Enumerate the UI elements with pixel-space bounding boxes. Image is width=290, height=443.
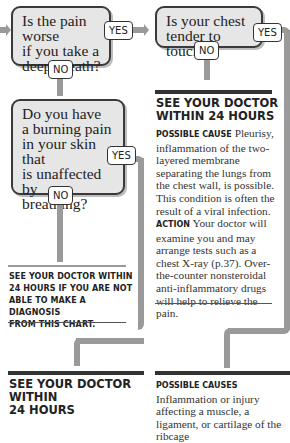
divider — [8, 322, 126, 323]
possible-causes-paragraph: Possible causes Inflammation or injury a… — [156, 378, 290, 443]
question-line: Do you have — [22, 106, 115, 121]
question-line: if you take a — [22, 43, 101, 58]
action-paragraph: Action Your doctor will examine you and … — [156, 217, 278, 320]
q2-yes-connector-vertical — [284, 30, 290, 330]
question-line: Is your chest — [166, 13, 253, 28]
outcome-line: able to make a diagnosis — [9, 295, 134, 319]
merge-connector-vertical — [74, 338, 80, 366]
possible-cause-text: Pleurisy, inflammation of the two-layere… — [156, 127, 275, 217]
heading-rule — [8, 371, 144, 375]
q3-no-label: NO — [48, 186, 73, 205]
outcome-line: See your doctor within — [9, 271, 134, 283]
divider — [155, 303, 272, 304]
q2-no-label: NO — [194, 41, 219, 60]
q2-yes-connector-down — [224, 328, 230, 368]
q3-no-connector — [57, 200, 63, 262]
possible-cause-label: Possible cause — [156, 130, 232, 139]
arrow-right-icon — [144, 24, 149, 36]
possible-causes-label: Possible causes — [156, 381, 238, 390]
question-line: in your skin that — [22, 136, 115, 166]
heading-rule — [155, 90, 272, 94]
heading-line: SEE YOUR DOCTOR WITHIN — [9, 378, 149, 404]
q1-yes-label: YES — [104, 21, 133, 40]
q2-yes-label: YES — [253, 23, 282, 42]
possible-cause-paragraph: Possible cause Pleurisy, inflammation of… — [156, 127, 278, 217]
merge-connector-horizontal — [76, 338, 144, 344]
q3-yes-connector-vertical-2 — [138, 250, 144, 330]
possible-causes-text: Inflammation or injury affecting a muscl… — [156, 393, 281, 443]
outcome-line: 24 hours if you are not — [9, 283, 134, 295]
q3-yes-label: YES — [107, 146, 136, 165]
q1-no-label: NO — [48, 60, 73, 79]
outcome-see-doctor-24h-heading: SEE YOUR DOCTOR WITHIN 24 HOURS — [9, 378, 149, 417]
action-label: Action — [156, 220, 190, 229]
heading-rule — [155, 371, 290, 375]
heading-line: WITHIN 24 HOURS — [156, 110, 281, 123]
heading-line: 24 HOURS — [9, 404, 149, 417]
q2-yes-connector-bottom — [228, 328, 290, 334]
question-pain-worse-deep-breath: Is the pain worse if you take a deep bre… — [11, 6, 111, 66]
outcome-pleurisy-heading: SEE YOUR DOCTOR WITHIN 24 HOURS — [156, 97, 281, 123]
q3-yes-connector-vertical — [138, 158, 144, 250]
outcome-line: from this chart. — [9, 319, 134, 331]
question-line: Is the pain worse — [22, 13, 101, 43]
question-line: a burning pain — [22, 121, 115, 136]
divider — [8, 265, 126, 267]
